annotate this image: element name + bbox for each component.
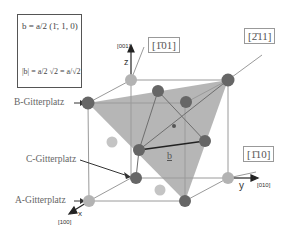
direction-label-211: [2̄11] (244, 28, 275, 44)
a-lattice-site-label: A-Gitterplatz (15, 195, 66, 205)
vector-definition: b = a/2 (1̄, 1, 0) (22, 21, 78, 31)
y-axis-label: y (239, 180, 244, 191)
direction-label-110: [1̄10] (243, 146, 274, 162)
z-axis-index: [001] (117, 43, 130, 49)
direction-label-101: [1̄01] (148, 37, 180, 53)
x-axis-label: x (78, 209, 82, 218)
y-axis-index: [010] (257, 182, 270, 188)
b-lattice-site-label: B-Gitterplatz (14, 97, 64, 107)
c-lattice-site-label: C-Gitterplatz (26, 154, 76, 164)
x-axis-index: [100] (58, 219, 71, 225)
formula-box: b = a/2 (1̄, 1, 0) |b| = a/2 √2 = a/√2 (17, 14, 82, 88)
vector-b-label: b (167, 150, 172, 161)
z-axis-label: z (124, 57, 129, 67)
vector-magnitude: |b| = a/2 √2 = a/√2 (22, 67, 81, 76)
